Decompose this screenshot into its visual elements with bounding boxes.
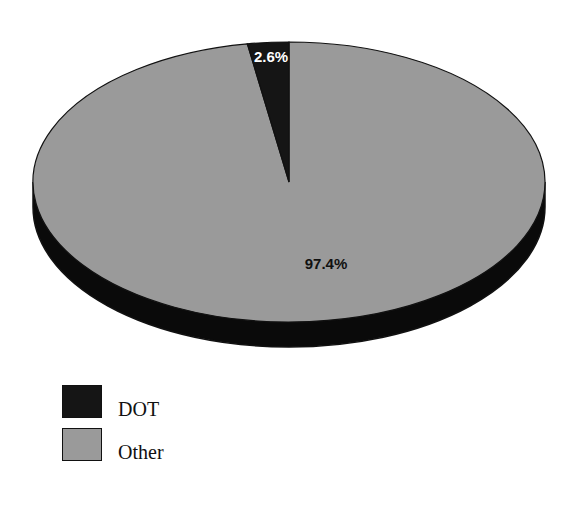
pie-top <box>33 42 545 322</box>
legend-swatch-other <box>62 428 102 461</box>
legend-label-other: Other <box>118 441 164 464</box>
other-percent-label: 97.4% <box>305 255 348 272</box>
dot-percent-label: 2.6% <box>254 48 288 65</box>
legend-label-dot: DOT <box>118 398 159 421</box>
legend-swatch-dot <box>62 385 102 418</box>
